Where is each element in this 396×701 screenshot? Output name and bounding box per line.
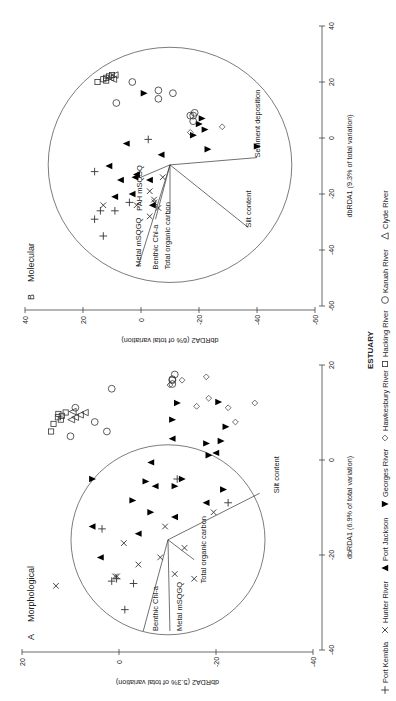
panel-letter: B xyxy=(26,294,36,300)
legend-label: Georges River xyxy=(381,448,390,497)
dbrda1-axis: -40-20020dbRDA1 (6.9% of total variation… xyxy=(319,361,354,655)
tick-label: 0 xyxy=(328,136,335,140)
triangle-down-marker xyxy=(179,476,186,482)
plus-marker xyxy=(111,207,119,215)
circle-marker xyxy=(91,419,98,426)
vector: Metal mSQGQ xyxy=(168,540,184,631)
circle-marker xyxy=(108,385,115,392)
plus-marker xyxy=(121,606,129,614)
triangle-down-marker xyxy=(172,483,179,489)
dbrda1-axis-label: dbRDA1 (6.9% of total variation) xyxy=(345,456,354,559)
legend-item: Hunter River xyxy=(381,580,390,632)
diamond-marker xyxy=(179,377,185,383)
legend-item: Karuah River xyxy=(381,249,390,304)
series-hacking-river xyxy=(49,410,69,434)
triangle-up-marker xyxy=(147,459,154,465)
dbrda2-axis-label: dbRDA2 (5.3% of total variation) xyxy=(116,678,219,687)
figure: -40-20020dbRDA2 (5.3% of total variation… xyxy=(0,0,396,701)
diamond-marker xyxy=(225,405,231,411)
vector: Silt content xyxy=(170,165,253,228)
legend-label: Hawkesbury River xyxy=(381,370,390,431)
legend: ESTUARYPort KemblaHunter RiverPort Jacks… xyxy=(366,190,390,694)
legend-label: Hacking River xyxy=(381,310,390,357)
tick-label: -40 xyxy=(310,657,317,667)
triangle-down-marker xyxy=(202,126,209,132)
plus-marker xyxy=(381,686,389,694)
cross-marker xyxy=(160,174,166,180)
triangle-down-marker xyxy=(190,132,197,138)
series-georges-river xyxy=(89,399,229,516)
tick-label: -60 xyxy=(312,315,319,325)
tick-label: -40 xyxy=(328,645,335,655)
cross-marker xyxy=(172,571,178,577)
legend-label: Hunter River xyxy=(381,580,390,623)
vector-line xyxy=(141,165,170,177)
tick-label: -40 xyxy=(328,245,335,255)
legend-label: Clyde River xyxy=(381,190,390,229)
triangle-up-marker xyxy=(212,450,219,456)
plus-marker xyxy=(224,499,232,507)
triangle-down-marker xyxy=(206,452,213,458)
triangle-up-marker xyxy=(152,483,159,489)
plus-marker xyxy=(91,215,99,223)
legend-item: Georges River xyxy=(381,448,390,507)
tick-label: 0 xyxy=(138,318,145,322)
triangle-down-marker xyxy=(382,501,389,507)
vector-label: Silt content xyxy=(244,190,253,228)
plus-marker xyxy=(126,199,134,207)
cross-marker xyxy=(147,188,153,194)
circle-marker xyxy=(113,100,120,107)
square-marker xyxy=(49,429,54,434)
plus-marker xyxy=(130,580,138,588)
vector: Total organic carbon xyxy=(163,165,172,270)
triangle-down-marker xyxy=(147,509,154,515)
circle-marker xyxy=(67,433,74,440)
tick-label: -40 xyxy=(254,315,261,325)
triangle-up-marker xyxy=(89,523,96,529)
series-hunter-river xyxy=(101,174,166,219)
legend-item: Clyde River xyxy=(381,190,390,239)
triangle-down-marker xyxy=(129,497,136,503)
legend-item: Port Jackson xyxy=(381,518,390,572)
vector-line xyxy=(168,540,194,560)
square-marker xyxy=(51,421,56,426)
cross-marker xyxy=(382,627,388,633)
vector-label: Total organic carbon xyxy=(163,202,172,270)
series-hawkesbury-river xyxy=(167,374,258,425)
triangle-up-marker xyxy=(171,514,178,520)
vector: Sediment deposition xyxy=(170,90,262,165)
triangle-up-marker xyxy=(203,500,210,506)
dbrda2-axis-label: dbRDA2 (6% of total variation) xyxy=(121,336,218,345)
circle-marker xyxy=(155,95,162,102)
legend-item: Port Kembla xyxy=(381,641,390,694)
series-georges-river xyxy=(141,90,261,152)
diamond-marker xyxy=(206,395,212,401)
plus-marker xyxy=(91,168,99,176)
triangle-up-marker xyxy=(129,191,136,197)
diamond-marker xyxy=(194,403,200,409)
series-karuah-river xyxy=(67,371,178,440)
square-marker xyxy=(63,410,68,415)
tick-label: 0 xyxy=(116,660,123,664)
diamond-marker xyxy=(252,400,258,406)
tick-label: -20 xyxy=(328,189,335,199)
legend-label: Port Kembla xyxy=(381,641,390,683)
tick-label: 20 xyxy=(19,658,26,666)
tick-label: -60 xyxy=(328,301,335,311)
square-marker xyxy=(95,79,100,84)
vector-label: Benthic Chl-a xyxy=(151,224,160,270)
diamond-marker xyxy=(382,435,388,441)
circle-marker xyxy=(103,428,110,435)
plus-marker xyxy=(98,525,106,533)
plus-marker xyxy=(97,207,105,215)
square-marker xyxy=(382,361,387,366)
vector-label: PAH mSQGQ xyxy=(135,165,144,211)
cross-marker xyxy=(182,545,188,551)
dbrda2-axis: -60-40-2002040dbRDA2 (6% of total variat… xyxy=(22,307,319,345)
triangle-down-marker xyxy=(142,478,149,484)
panel-letter: A xyxy=(26,634,36,640)
vector-label: Silt content xyxy=(272,455,281,493)
cross-marker xyxy=(147,214,153,220)
vector-label: Metal mSQGQ xyxy=(175,582,184,631)
diamond-marker xyxy=(219,124,225,130)
